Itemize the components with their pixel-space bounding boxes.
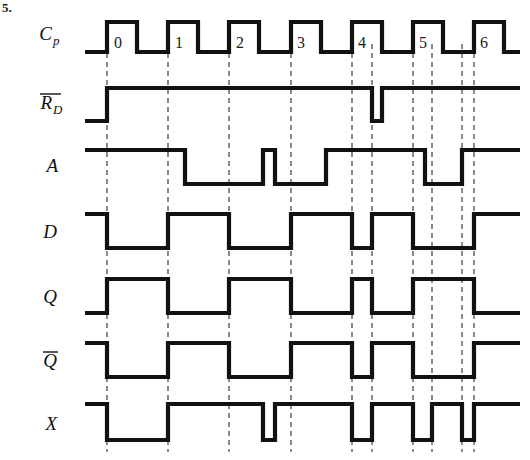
waveform-D: [85, 214, 520, 248]
clock-pulse-number-1: 1: [175, 34, 183, 51]
signal-label-subscript-Cp: p: [52, 33, 60, 48]
clock-pulse-number-2: 2: [236, 34, 244, 51]
waveform-A: [85, 150, 520, 184]
waveform-Qbar: [85, 343, 520, 377]
waveform-Q: [85, 279, 520, 313]
signal-label-D: D: [42, 221, 57, 242]
signal-label-X: X: [44, 413, 58, 434]
signal-label-A: A: [44, 155, 58, 176]
timing-diagram-figure: 5. 0123456 CpRDADQQX: [0, 0, 530, 460]
signal-label-Qbar: Q: [43, 350, 57, 371]
clock-pulse-number-6: 6: [480, 34, 488, 51]
clock-pulse-number-3: 3: [297, 34, 305, 51]
signal-label-Cp: C: [39, 23, 52, 44]
signal-label-Q: Q: [43, 286, 57, 307]
clock-pulse-number-4: 4: [358, 34, 366, 51]
signal-label-RD: R: [39, 92, 52, 113]
figure-corner-label: 5.: [2, 0, 12, 16]
timing-diagram-svg: 0123456 CpRDADQQX: [0, 0, 530, 460]
signal-labels-group: CpRDADQQX: [39, 23, 63, 434]
waveform-X: [85, 404, 520, 440]
clock-pulse-number-0: 0: [114, 34, 122, 51]
waveforms-group: [85, 22, 520, 440]
waveform-RD: [85, 88, 520, 121]
clock-pulse-number-5: 5: [419, 34, 427, 51]
signal-label-subscript-RD: D: [52, 102, 63, 117]
